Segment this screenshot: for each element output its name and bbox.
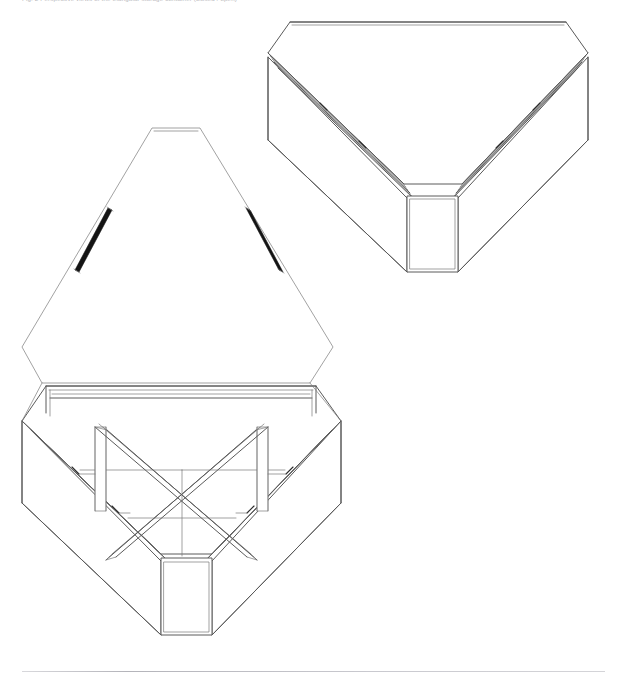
- open-divider-upright-right: [257, 427, 268, 511]
- footer-horizontal-rule: [22, 671, 605, 672]
- closed-front-corner-panel: [407, 196, 458, 272]
- open-divider-upright-left: [95, 427, 106, 511]
- open-lid-panel: [22, 128, 333, 383]
- technical-drawing-canvas: .ln { fill:none; stroke:#5a5a5a; stroke-…: [0, 0, 617, 685]
- drawing-page: Fig. 2 Perspective views of the triangul…: [0, 0, 617, 685]
- open-front-corner-panel: [161, 558, 212, 635]
- closed-container-view: [268, 22, 588, 272]
- open-container-view: [22, 128, 341, 635]
